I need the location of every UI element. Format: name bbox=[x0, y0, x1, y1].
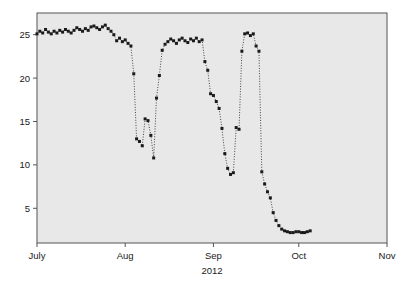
data-point bbox=[72, 29, 75, 32]
data-point bbox=[266, 190, 269, 193]
data-point bbox=[146, 119, 149, 122]
data-point bbox=[189, 38, 192, 41]
x-tick-label: July bbox=[29, 250, 46, 261]
data-point bbox=[232, 171, 235, 174]
timeseries-scatter-plot: 510152025 JulyAugSepOctNov 2012 bbox=[0, 0, 409, 290]
data-point bbox=[280, 228, 283, 231]
data-point bbox=[183, 39, 186, 42]
data-point bbox=[283, 229, 286, 232]
data-point bbox=[70, 31, 73, 34]
x-axis-caption: 2012 bbox=[201, 265, 222, 276]
data-point bbox=[309, 229, 312, 232]
chart-figure: 510152025 JulyAugSepOctNov 2012 bbox=[0, 0, 409, 290]
data-point bbox=[152, 156, 155, 159]
data-point bbox=[67, 30, 70, 33]
data-point bbox=[246, 31, 249, 34]
data-point bbox=[306, 230, 309, 233]
data-point bbox=[215, 100, 218, 103]
data-point bbox=[155, 97, 158, 100]
data-point bbox=[252, 32, 255, 35]
x-tick-label: Sep bbox=[205, 250, 222, 261]
plot-area-background bbox=[37, 13, 387, 243]
data-point bbox=[300, 231, 303, 234]
data-point bbox=[209, 92, 212, 95]
data-point bbox=[98, 28, 101, 31]
data-point bbox=[87, 29, 90, 32]
data-point bbox=[135, 137, 138, 140]
data-point bbox=[175, 42, 178, 45]
data-point bbox=[41, 31, 44, 34]
data-point bbox=[58, 29, 61, 32]
data-point bbox=[269, 196, 272, 199]
data-point bbox=[277, 224, 280, 227]
y-tick-label: 10 bbox=[19, 159, 30, 170]
data-point bbox=[149, 134, 152, 137]
data-point bbox=[263, 182, 266, 185]
data-point bbox=[172, 39, 175, 42]
x-tick-label: Oct bbox=[291, 250, 306, 261]
data-point bbox=[286, 230, 289, 233]
data-point bbox=[90, 25, 93, 28]
data-point bbox=[53, 30, 56, 33]
data-point bbox=[203, 60, 206, 63]
data-point bbox=[226, 167, 229, 170]
data-point bbox=[275, 219, 278, 222]
data-point bbox=[178, 38, 181, 41]
data-point bbox=[78, 28, 81, 31]
y-tick-label: 5 bbox=[25, 203, 30, 214]
data-point bbox=[206, 69, 209, 72]
data-point bbox=[303, 231, 306, 234]
data-point bbox=[81, 30, 84, 33]
data-point bbox=[95, 26, 98, 29]
data-point bbox=[198, 40, 201, 43]
data-point bbox=[238, 128, 241, 131]
data-point bbox=[124, 38, 127, 41]
data-point bbox=[55, 31, 58, 34]
y-tick-label: 25 bbox=[19, 29, 30, 40]
data-point bbox=[64, 28, 67, 31]
data-point bbox=[220, 127, 223, 130]
data-point bbox=[195, 37, 198, 40]
data-point bbox=[129, 44, 132, 47]
data-point bbox=[243, 32, 246, 35]
data-point bbox=[212, 94, 215, 97]
data-point bbox=[61, 31, 64, 34]
data-point bbox=[115, 39, 118, 42]
data-point bbox=[201, 38, 204, 41]
data-point bbox=[229, 173, 232, 176]
data-point bbox=[235, 126, 238, 129]
x-tick-label: Aug bbox=[117, 250, 134, 261]
data-point bbox=[166, 40, 169, 43]
y-tick-label: 20 bbox=[19, 73, 30, 84]
data-point bbox=[127, 42, 130, 45]
data-point bbox=[38, 30, 41, 33]
data-point bbox=[169, 38, 172, 41]
data-point bbox=[218, 107, 221, 110]
data-point bbox=[181, 37, 184, 40]
data-point bbox=[36, 32, 39, 35]
data-point bbox=[272, 211, 275, 214]
data-point bbox=[44, 28, 47, 31]
data-point bbox=[257, 50, 260, 53]
data-point bbox=[255, 44, 258, 47]
data-point bbox=[164, 43, 167, 46]
y-tick-label: 15 bbox=[19, 116, 30, 127]
data-point bbox=[186, 41, 189, 44]
data-point bbox=[132, 72, 135, 75]
data-point bbox=[141, 144, 144, 147]
data-point bbox=[84, 27, 87, 30]
data-point bbox=[161, 49, 164, 52]
data-point bbox=[121, 40, 124, 43]
data-point bbox=[192, 39, 195, 42]
data-point bbox=[104, 24, 107, 27]
data-point bbox=[158, 74, 161, 77]
data-point bbox=[144, 117, 147, 120]
data-point bbox=[297, 230, 300, 233]
data-point bbox=[109, 30, 112, 33]
data-point bbox=[47, 31, 50, 34]
data-point bbox=[92, 25, 95, 28]
data-point bbox=[107, 27, 110, 30]
data-point bbox=[223, 152, 226, 155]
data-point bbox=[292, 231, 295, 234]
data-point bbox=[249, 34, 252, 37]
